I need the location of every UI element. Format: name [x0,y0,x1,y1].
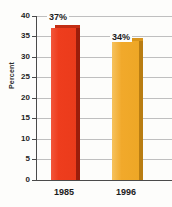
y-tick-20 [32,98,36,99]
x-axis-label-1996: 1996 [104,187,148,197]
y-tick-15 [32,118,36,119]
value-label-1996: 34% [110,32,132,42]
y-tick-35 [32,36,36,37]
y-tick-label-30: 30 [8,53,30,61]
bar-1996 [112,41,139,180]
y-tick-label-10: 10 [8,135,30,143]
y-tick-30 [32,57,36,58]
y-tick-label-15: 15 [8,114,30,122]
y-tick-25 [32,77,36,78]
plot-area [37,16,172,180]
x-axis-label-1985: 1985 [42,187,86,197]
bar-1985-front-face [51,28,76,180]
bar-1996-side-face [139,41,143,180]
y-tick-label-25: 25 [8,73,30,81]
y-tick-label-40: 40 [8,12,30,20]
bar-1985 [51,28,76,180]
y-tick-label-5: 5 [8,155,30,163]
y-tick-label-20: 20 [8,94,30,102]
y-tick-10 [32,139,36,140]
y-tick-40 [32,16,36,17]
value-label-1985: 37% [47,12,69,22]
y-tick-label-0: 0 [8,176,30,184]
y-tick-5 [32,159,36,160]
bar-chart: Percent 40 35 30 25 20 15 10 [0,0,172,207]
y-tick-label-35: 35 [8,32,30,40]
bar-1996-front-face [112,41,139,180]
gridline-0 [37,180,172,181]
y-tick-0 [32,180,36,181]
bar-1985-side-face [76,28,80,180]
